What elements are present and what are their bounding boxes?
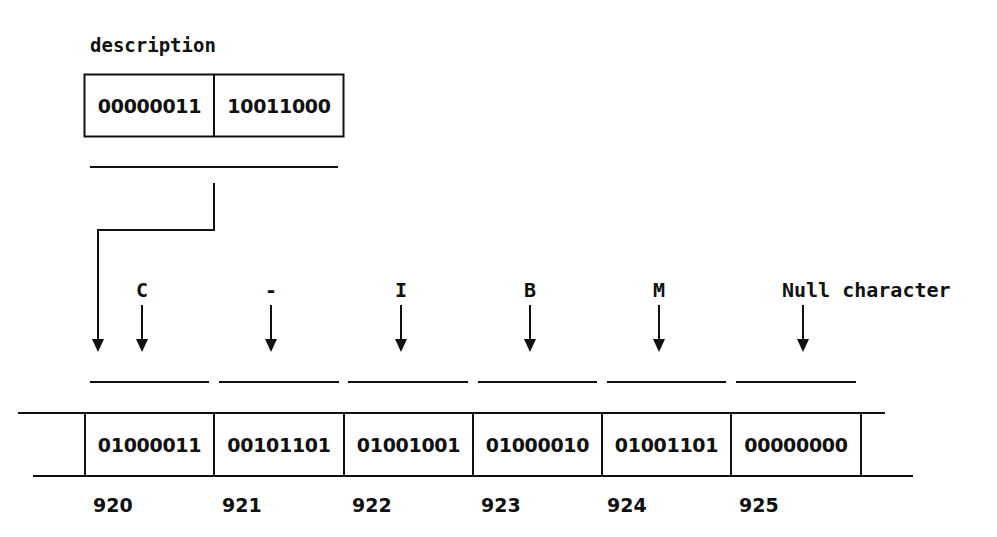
char-label-i: I — [381, 278, 421, 302]
char-label-b: B — [510, 278, 550, 302]
description-byte-0: 00000011 — [85, 75, 214, 136]
address-925: 925 — [739, 494, 779, 516]
char-label-null: Null character — [782, 278, 951, 302]
memory-cell-925: 00000000 — [731, 414, 861, 475]
pointer-connector-arrow — [98, 183, 214, 341]
memory-cell-922: 01001001 — [344, 414, 473, 475]
char-label-dash: - — [251, 278, 291, 302]
char-label-c: C — [122, 278, 162, 302]
memory-cell-924: 01001101 — [602, 414, 731, 475]
memory-cell-923: 01000010 — [473, 414, 602, 475]
address-923: 923 — [481, 494, 521, 516]
char-label-m: M — [639, 278, 679, 302]
memory-cell-920: 01000011 — [85, 414, 214, 475]
address-922: 922 — [352, 494, 392, 516]
char-arrows — [136, 305, 809, 352]
address-920: 920 — [93, 494, 133, 516]
description-byte-1: 10011000 — [214, 75, 344, 136]
address-924: 924 — [607, 494, 647, 516]
memory-cell-921: 00101101 — [214, 414, 344, 475]
address-921: 921 — [222, 494, 262, 516]
variable-name-label: description — [90, 34, 216, 56]
